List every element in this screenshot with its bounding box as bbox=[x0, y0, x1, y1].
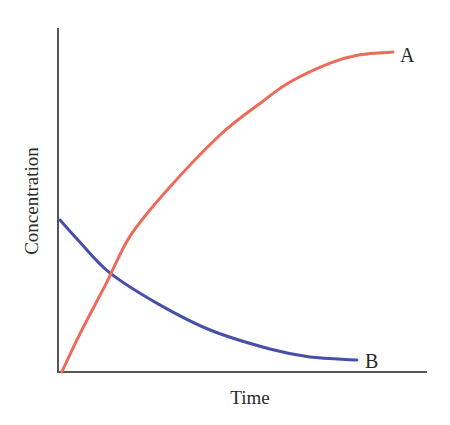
x-axis-label: Time bbox=[230, 387, 269, 408]
series-b-line bbox=[60, 220, 357, 360]
series-b-label: B bbox=[365, 350, 378, 372]
plot-area bbox=[57, 28, 427, 373]
concentration-time-chart: A B Time Concentration bbox=[0, 0, 450, 425]
series-a-line bbox=[62, 52, 393, 372]
series-a-label: A bbox=[400, 44, 415, 66]
y-axis-label: Concentration bbox=[21, 147, 42, 255]
